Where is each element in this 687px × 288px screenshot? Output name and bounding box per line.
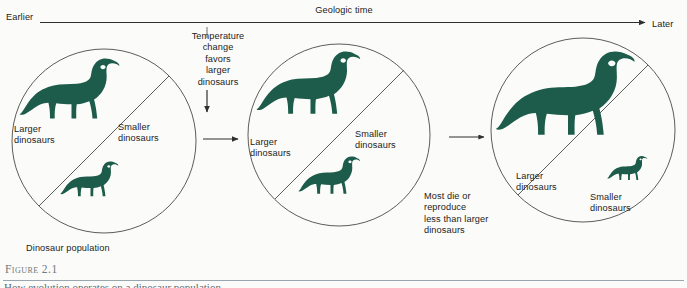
stage-1-large-dinosaur	[20, 58, 120, 118]
timeline-start-label: Earlier	[6, 12, 33, 23]
stage-1-caption: Dinosaur population	[26, 243, 176, 254]
stage-1-larger-label: Larger dinosaurs	[14, 124, 70, 147]
stage-1-small-dinosaur	[60, 161, 118, 196]
stage-2-large-dinosaur	[257, 52, 361, 114]
figure-2-1: Earlier Geologic time Later Larger dinos…	[0, 0, 687, 288]
timeline-end-label: Later	[652, 19, 673, 30]
stage-2-smaller-label: Smaller dinosaurs	[355, 129, 413, 152]
stage-3-large-dinosaur	[496, 51, 635, 134]
timeline-title: Geologic time	[289, 5, 399, 16]
stage-3-larger-label: Larger dinosaurs	[516, 171, 572, 194]
timeline-axis	[40, 23, 645, 39]
stage-2-larger-label: Larger dinosaurs	[250, 137, 306, 160]
step-1-text: Temperature change favors larger dinosau…	[181, 31, 255, 88]
step-1-arrows	[203, 90, 238, 139]
figure-number-label: Figure 2.1	[5, 263, 58, 275]
stage-3-small-dinosaur	[607, 156, 647, 180]
figure-caption-text: How evolution operates on a dinosaur pop…	[4, 281, 604, 288]
stage-2-small-dinosaur	[298, 157, 360, 194]
stage-1-smaller-label: Smaller dinosaurs	[118, 122, 176, 145]
step-2-text: Most die or reproduce less than larger d…	[424, 191, 510, 237]
stage-3-smaller-label: Smaller dinosaurs	[590, 192, 648, 215]
